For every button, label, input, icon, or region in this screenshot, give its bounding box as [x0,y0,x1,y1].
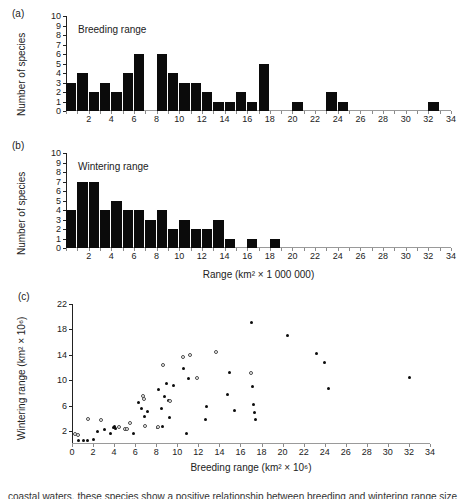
panel-b-y-tick-label: 0 [56,244,61,253]
panel-a-x-tick [66,111,67,114]
panel-a-x-tick [394,111,395,114]
panel-c-point-filled [165,382,168,385]
panel-b-x-tick [168,248,169,251]
panel-b-x-tick [349,248,350,251]
panel-c-x-tick-label: 28 [362,448,372,457]
panel-c-point-filled [161,425,164,428]
panel-c-point-filled [182,367,185,370]
panel-b-bar [134,210,144,248]
panel-b-x-tick-label: 26 [355,252,365,261]
panel-c-point-open [128,421,132,425]
panel-c-point-filled [253,411,256,414]
panel-c-point-filled [146,410,149,413]
panel-a-y-tick-label: 8 [56,31,61,40]
panel-b-ylabel: Number of species [16,172,27,255]
panel-b-x-tick-label: 32 [423,252,433,261]
panel-a-x-tick-label: 32 [423,115,433,124]
panel-a-x-tick [236,111,237,114]
panel-c-point-filled [82,439,85,442]
panel-c-y-tick [69,304,72,305]
panel-a-bar [202,92,212,111]
panel-b-x-tick [66,248,67,251]
panel-c-y-tick-label: 10 [57,376,67,385]
panel-a-bar [123,73,133,111]
panel-a-x-tick-label: 24 [333,115,343,124]
panel-a-y-tick-label: 6 [56,50,61,59]
panel-c-y-tick [69,406,72,407]
panel-c-point-filled [315,352,318,355]
panel-b-bar [157,210,167,248]
panel-b-x-tick-label: 16 [242,252,252,261]
panel-c-point-open [117,425,121,429]
panel-b-bar [100,210,110,248]
panel-c-x-tick-label: 6 [133,448,138,457]
panel-b-y-tick [63,153,66,154]
panel-c-point-open [99,418,103,422]
panel-c: (c) Wintering range (km² × 10⁶) 26101418… [0,290,465,490]
panel-c-x-tick-label: 10 [172,448,182,457]
panel-c-y-tick-label: 18 [57,325,67,334]
panel-a-ylabel: Number of species [16,33,27,116]
panel-a-x-tick [417,111,418,114]
panel-c-x-tick-label: 8 [154,448,159,457]
panel-c-x-tick-label: 16 [235,448,245,457]
panel-b-bar [213,220,223,249]
panel-b-x-tick-label: 14 [220,252,230,261]
panel-c-point-open [188,353,192,357]
panel-b-x-tick [304,248,305,251]
panel-c-x-tick-label: 32 [404,448,414,457]
panel-a-x-tick [100,111,101,114]
panel-a-x-tick-label: 10 [174,115,184,124]
panel-b-bar [247,239,257,249]
panel-a-bar [247,102,257,112]
panel-a-x-tick [259,111,260,114]
panel-a-bar [326,92,336,111]
panel-a-bar [100,83,110,112]
panel-a-bar [89,92,99,111]
panel-b-x-tick-label: 10 [174,252,184,261]
panel-b-y-tick-label: 10 [51,149,61,158]
panel-b-x-tick [394,248,395,251]
panel-c-point-open [195,376,199,380]
panel-c-point-filled [137,401,140,404]
panel-a-bar [236,92,246,111]
panel-c-point-open [214,350,218,354]
panel-b-x-tick [191,248,192,251]
panel-c-point-filled [286,334,289,337]
panel-b-bar [111,201,121,249]
panel-b-bar [77,182,87,249]
panel-b-x-tick-label: 20 [287,252,297,261]
panel-b-x-tick-label: 12 [197,252,207,261]
panel-b-bar [145,220,155,249]
panel-a-x-tick [168,111,169,114]
panel-b-bar [89,182,99,249]
panel-a-bar [259,64,269,112]
panel-b-x-tick [281,248,282,251]
panel-b-bar [202,229,212,248]
panel-b-x-tick [145,248,146,251]
panel-c-point-filled [254,418,257,421]
caption-sliver: coastal waters, these species show a pos… [0,491,465,499]
panel-c-y-tick-label: 22 [57,300,67,309]
panel-c-y-tick [69,431,72,432]
panel-c-point-filled [233,409,236,412]
panel-a-x-tick [213,111,214,114]
panel-a-y-tick-label: 4 [56,69,61,78]
panel-a-bar [191,83,201,112]
panel-b-bar [123,210,133,248]
panel-c-y-tick [69,329,72,330]
panel-b-x-tick-label: 24 [333,252,343,261]
panel-c-point-filled [185,432,188,435]
panel-a-y-tick-label: 2 [56,88,61,97]
panel-a-bar [428,102,438,112]
panel-b-x-tick [259,248,260,251]
panel-b-x-tick [326,248,327,251]
panel-b-bar [270,239,280,249]
panel-b-title: Wintering range [78,161,149,172]
panel-c-point-open [181,355,185,359]
panel-b-y-tick-label: 8 [56,168,61,177]
panel-c-point-filled [250,321,253,324]
panel-c-point-open [249,371,253,375]
panel-c-x-tick-label: 18 [257,448,267,457]
panel-c-x-tick-label: 22 [299,448,309,457]
